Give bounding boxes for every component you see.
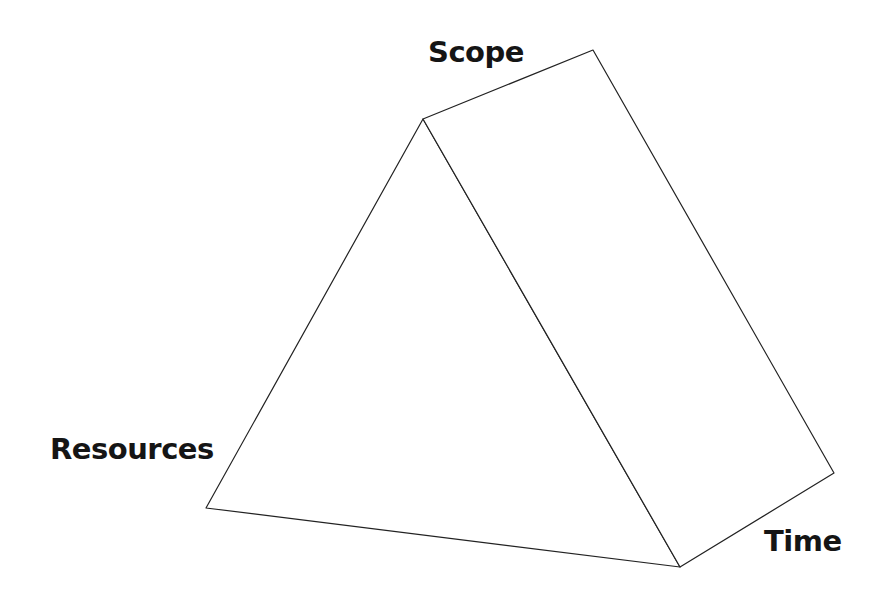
scope-label: Scope xyxy=(428,38,524,67)
triangular-prism xyxy=(206,50,834,567)
prism-diagram xyxy=(0,0,888,598)
resources-label: Resources xyxy=(50,435,214,464)
time-label: Time xyxy=(764,527,842,556)
